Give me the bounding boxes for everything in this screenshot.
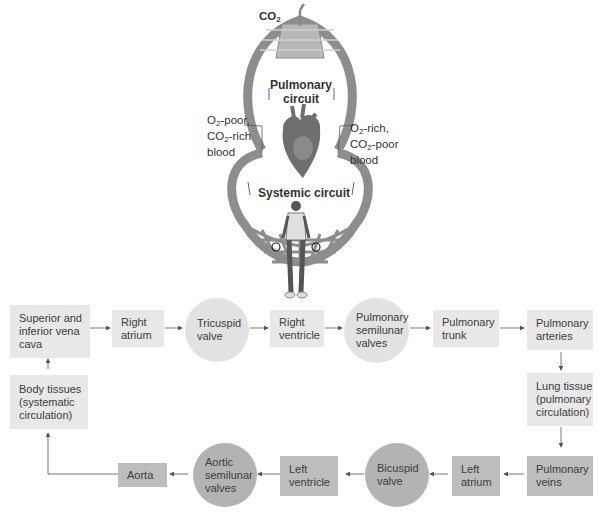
node-label: Pulmonary veins — [536, 463, 589, 489]
node-pulmonary-veins: Pulmonary veins — [527, 456, 593, 496]
node-pulmonary-trunk: Pulmonary trunk — [433, 310, 499, 347]
node-label: Left atrium — [461, 463, 492, 489]
o2-rich-blood-label: O2-rich,CO2-poorblood — [350, 122, 399, 167]
systemic-circuit-title: Systemic circuit — [256, 186, 352, 200]
person-icon — [283, 201, 309, 298]
node-lung-tissue: Lung tissue (pulmonary circulation) — [527, 373, 593, 426]
heart-icon — [283, 104, 321, 178]
node-label: Pulmonary arteries — [536, 317, 589, 343]
node-label: Bicuspid valve — [377, 462, 419, 488]
node-vena-cava: Superior and inferior vena cava — [10, 305, 90, 358]
node-label: Pulmonary semilunar valves — [356, 311, 409, 350]
node-label: Left ventricle — [289, 463, 330, 489]
node-right-ventricle: Right ventricle — [270, 310, 324, 347]
node-label: Superior and inferior vena cava — [19, 312, 82, 351]
node-label: Tricuspid valve — [197, 317, 241, 343]
co2-label: CO2 — [259, 10, 281, 26]
node-left-ventricle: Left ventricle — [280, 456, 338, 496]
node-left-atrium: Left atrium — [452, 456, 500, 496]
node-label: Right atrium — [121, 316, 152, 342]
node-pulmonary-arteries: Pulmonary arteries — [527, 310, 593, 350]
node-label: Lung tissue (pulmonary circulation) — [536, 380, 592, 419]
circulation-illustration — [0, 0, 605, 300]
node-label: Body tissues (systematic circulation) — [19, 383, 81, 422]
node-label: Right ventricle — [279, 316, 320, 342]
node-label: Aorta — [127, 469, 153, 482]
node-aorta: Aorta — [118, 463, 167, 487]
node-tricuspid-valve: Tricuspid valve — [185, 298, 249, 362]
node-right-atrium: Right atrium — [112, 310, 164, 347]
node-aortic-semilunar-valves: Aortic semilunar valves — [193, 443, 257, 507]
node-bicuspid-valve: Bicuspid valve — [365, 443, 429, 507]
node-body-tissues: Body tissues (systematic circulation) — [10, 375, 88, 429]
pulmonary-circuit-title: Pulmonary circuit — [268, 78, 334, 106]
o2-poor-blood-label: O2-poor,CO2-richblood — [207, 114, 251, 159]
node-label: Pulmonary trunk — [442, 316, 495, 342]
circulation-figure: CO2 Pulmonary circuit O2-poor,CO2-richbl… — [0, 0, 605, 300]
node-pulmonary-semilunar-valves: Pulmonary semilunar valves — [344, 298, 409, 363]
node-label: Aortic semilunar valves — [205, 456, 253, 495]
